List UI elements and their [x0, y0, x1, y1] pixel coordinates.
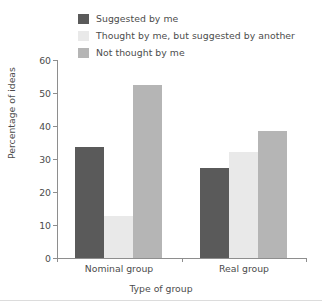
- y-axis-title: Percentage of ideas: [6, 67, 17, 159]
- y-tick-label: 40: [39, 121, 51, 132]
- y-tick-label: 10: [39, 220, 51, 231]
- page-divider: [0, 300, 322, 301]
- bar-nominal-not-thought-by-me: [133, 85, 162, 258]
- bar-chart-figure: Suggested by me Thought by me, but sugge…: [0, 0, 322, 306]
- legend-item-label: Thought by me, but suggested by another: [96, 31, 295, 41]
- legend-swatch-icon: [78, 14, 89, 24]
- legend-swatch-icon: [78, 31, 89, 41]
- x-tick-mark: [57, 258, 58, 262]
- chart-legend: Suggested by me Thought by me, but sugge…: [78, 11, 308, 62]
- legend-item-label: Suggested by me: [96, 14, 178, 24]
- plot-area: 60 50 40 30 20 10 0: [57, 60, 307, 258]
- legend-item-not-thought-by-me: Not thought by me: [78, 45, 308, 61]
- legend-item-thought-by-me: Thought by me, but suggested by another: [78, 28, 308, 44]
- bar-real-suggested-by-me: [200, 168, 229, 258]
- y-tick-label: 50: [39, 88, 51, 99]
- x-tick-mark: [306, 258, 307, 262]
- bar-real-thought-by-me: [229, 152, 258, 258]
- bar-real-not-thought-by-me: [258, 131, 287, 258]
- legend-item-suggested-by-me: Suggested by me: [78, 11, 308, 27]
- x-axis-title: Type of group: [0, 283, 322, 294]
- y-tick-label: 30: [39, 154, 51, 165]
- x-tick-mark: [182, 258, 183, 262]
- x-tick-label-nominal-group: Nominal group: [85, 263, 153, 274]
- legend-swatch-icon: [78, 48, 89, 58]
- y-tick-label: 20: [39, 187, 51, 198]
- y-tick-label: 0: [45, 253, 51, 264]
- x-tick-label-real-group: Real group: [219, 263, 269, 274]
- legend-item-label: Not thought by me: [96, 48, 185, 58]
- bar-nominal-suggested-by-me: [75, 147, 104, 259]
- y-tick-label: 60: [39, 55, 51, 66]
- bar-nominal-thought-by-me: [104, 216, 133, 258]
- y-axis-line: [57, 60, 58, 258]
